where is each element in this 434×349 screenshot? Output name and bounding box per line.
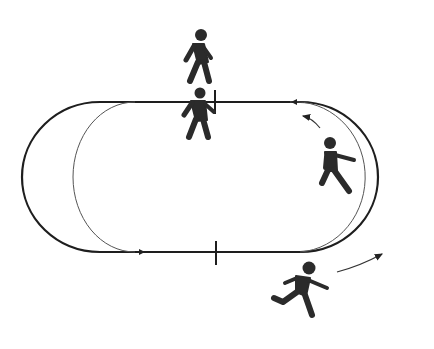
walker-at-line-icon (184, 88, 214, 138)
runner-curve-icon (322, 137, 354, 191)
track-arrow-bottom-icon (139, 249, 145, 255)
direction-arrow-top (303, 116, 320, 128)
direction-arrow-bottom (337, 254, 382, 272)
inner-lane (73, 102, 365, 252)
runner-bottom-icon (274, 262, 327, 316)
track-diagram (0, 0, 434, 349)
track-arrow-top-icon (291, 99, 297, 105)
walker-top-icon (186, 29, 211, 81)
